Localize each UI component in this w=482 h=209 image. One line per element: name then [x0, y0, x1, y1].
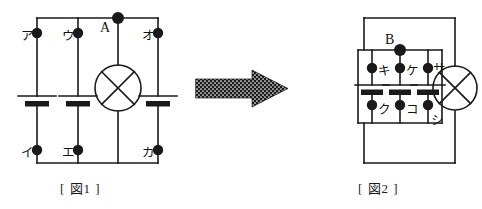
fig1-node-A: [112, 12, 124, 24]
fig2-node-ki: [367, 63, 377, 73]
fig2-label-B: B: [385, 32, 394, 48]
transform-arrow-shape: [196, 70, 288, 107]
fig1-label-ka: カ: [142, 142, 155, 161]
fig2-node-shi: [423, 100, 433, 110]
fig1-label-a: ア: [21, 25, 34, 44]
fig1-battery-2: [59, 96, 97, 107]
diagram-canvas: ア ウ オ イ エ カ A キ ケ サ ク コ シ B [ 図1 ] [ 図2 …: [0, 0, 482, 209]
fig2-node-ku: [367, 100, 377, 110]
fig2-label-ki: キ: [378, 60, 391, 79]
figure-1-caption: [ 図1 ]: [60, 178, 101, 197]
fig2-label-sa: サ: [433, 58, 446, 77]
fig2-node-ko: [395, 100, 405, 110]
fig1-label-e: エ: [62, 142, 75, 161]
figure-2-circuit: [355, 18, 477, 163]
fig2-node-ke: [395, 63, 405, 73]
fig1-lamp: [95, 65, 141, 111]
fig1-label-o: オ: [142, 25, 155, 44]
fig1-label-u: ウ: [62, 25, 75, 44]
fig2-label-ke: ケ: [406, 60, 419, 79]
fig1-battery-3: [139, 96, 177, 107]
fig2-battery-1: [355, 85, 389, 95]
fig1-label-i: イ: [21, 142, 34, 161]
fig2-label-ku: ク: [378, 99, 391, 118]
fig2-battery-2: [383, 85, 417, 95]
fig2-battery-3: [411, 85, 445, 95]
fig2-node-B: [394, 44, 406, 56]
fig1-label-A: A: [100, 20, 110, 36]
fig2-node-sa: [423, 63, 433, 73]
figure-2-caption: [ 図2 ]: [358, 178, 399, 197]
fig2-label-shi: シ: [431, 110, 444, 129]
fig2-label-ko: コ: [406, 99, 419, 118]
fig1-battery-1: [18, 96, 56, 107]
